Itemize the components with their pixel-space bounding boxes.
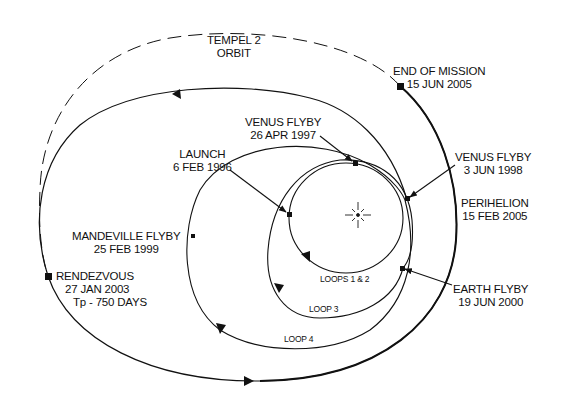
venus-flyby-1-label: VENUS FLYBY 26 APR 1997 [245,116,321,142]
venus-flyby-2-marker [405,196,410,201]
launch-marker [287,212,292,217]
mandeville-flyby-marker [191,234,195,238]
label-line: ORBIT [207,47,261,60]
earth-flyby-marker [400,266,405,271]
earth-flyby-leader [405,269,452,285]
event-title: VENUS FLYBY [455,151,531,164]
loop4-label: LOOP 4 [284,334,313,344]
event-title: MANDEVILLE FLYBY [72,230,180,243]
event-title: LAUNCH [173,148,232,161]
event-date: 15 JUN 2005 [393,78,485,91]
loop4-orbit [187,146,411,348]
tempel2-orbit-label: TEMPEL 2 ORBIT [207,34,261,60]
end-of-mission-label: END OF MISSION 15 JUN 2005 [393,65,485,91]
sun-icon [345,202,371,228]
launch-leader [230,170,286,212]
event-date: 6 FEB 1996 [173,161,232,174]
venus-flyby-2-label: VENUS FLYBY 3 JUN 1998 [455,151,531,177]
loops12-label: LOOPS 1 & 2 [320,274,369,284]
rendezvous-marker [45,273,52,280]
launch-label: LAUNCH 6 FEB 1996 [173,148,232,174]
event-title: END OF MISSION [393,65,485,78]
venus-flyby-2-leader [410,165,455,197]
event-title: RENDEZVOUS [56,270,147,283]
rendezvous-label: RENDEZVOUS 27 JAN 2003 Tp - 750 DAYS [56,270,147,309]
event-date: 27 JAN 2003 [56,283,147,296]
event-date: 3 JUN 1998 [455,164,531,177]
event-date: 25 FEB 1999 [72,243,180,256]
venus-flyby-1-marker [353,161,358,166]
event-date: 19 JUN 2000 [453,296,528,309]
direction-arrow [244,376,254,386]
event-title: EARTH FLYBY [453,283,528,296]
perihelion-label: PERIHELION 15 FEB 2005 [461,197,529,223]
mandeville-flyby-label: MANDEVILLE FLYBY 25 FEB 1999 [72,230,180,256]
event-date: 26 APR 1997 [245,129,321,142]
label-line: TEMPEL 2 [207,34,261,47]
earth-flyby-label: EARTH FLYBY 19 JUN 2000 [453,283,528,309]
loop3-label: LOOP 3 [309,304,338,314]
event-note: Tp - 750 DAYS [56,296,147,309]
event-date: 15 FEB 2005 [461,210,529,223]
event-title: VENUS FLYBY [245,116,321,129]
event-title: PERIHELION [461,197,529,210]
